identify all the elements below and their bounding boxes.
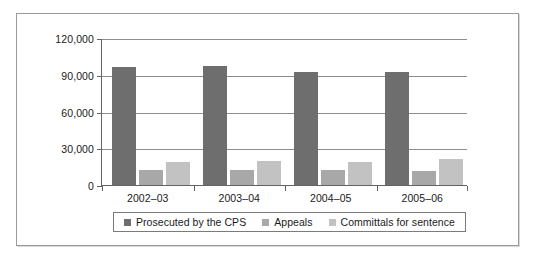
bar-group — [376, 39, 467, 185]
bar — [321, 170, 345, 185]
bar — [257, 161, 281, 186]
bar-group — [103, 39, 194, 185]
x-axis-group: 2002–03 — [102, 186, 194, 208]
legend-item-label: Prosecuted by the CPS — [136, 216, 246, 228]
x-axis-tick — [194, 186, 195, 191]
legend-swatch-icon — [329, 219, 336, 226]
legend-swatch-icon — [124, 219, 131, 226]
x-axis-tick-label: 2002–03 — [102, 192, 194, 204]
x-axis-tick-label: 2004–05 — [285, 192, 377, 204]
x-axis-tick — [285, 186, 286, 191]
x-axis-group: 2005–06 — [377, 186, 469, 208]
y-axis-tick-label: 60,000 — [61, 107, 94, 119]
y-axis-tick — [97, 113, 102, 114]
bar-chart: 030,00060,00090,000120,000 2002–032003–0… — [17, 14, 520, 247]
bar — [112, 67, 136, 185]
chart-figure-frame: 030,00060,00090,000120,000 2002–032003–0… — [16, 13, 519, 246]
bar — [439, 159, 463, 185]
bar — [203, 66, 227, 185]
legend-item-label: Appeals — [274, 216, 312, 228]
x-axis-tick-label: 2005–06 — [377, 192, 469, 204]
x-axis-group: 2004–05 — [285, 186, 377, 208]
bar — [294, 72, 318, 185]
legend-item-label: Committals for sentence — [341, 216, 455, 228]
x-axis-tick — [102, 186, 103, 191]
bar — [412, 171, 436, 185]
x-axis-tick — [467, 186, 468, 191]
bar — [230, 170, 254, 185]
y-axis-tick-label: 120,000 — [55, 33, 94, 45]
bar — [385, 72, 409, 185]
y-axis-tick — [97, 39, 102, 40]
y-axis-tick — [97, 149, 102, 150]
legend-item: Prosecuted by the CPS — [124, 216, 246, 228]
bar — [348, 162, 372, 185]
x-axis-group: 2003–04 — [194, 186, 286, 208]
bar-group — [285, 39, 376, 185]
bar — [139, 170, 163, 185]
y-axis-tick-label: 0 — [88, 180, 94, 192]
legend-swatch-icon — [262, 219, 269, 226]
bar — [166, 162, 190, 185]
plot-area: 030,00060,00090,000120,000 — [101, 39, 467, 186]
x-axis: 2002–032003–042004–052005–06 — [102, 186, 468, 208]
legend-item: Appeals — [262, 216, 312, 228]
bars-layer — [103, 39, 467, 185]
y-axis-tick — [97, 76, 102, 77]
y-axis-tick-label: 90,000 — [61, 70, 94, 82]
chart-legend: Prosecuted by the CPSAppealsCommittals f… — [113, 212, 466, 232]
legend-item: Committals for sentence — [329, 216, 455, 228]
x-axis-tick-label: 2003–04 — [194, 192, 286, 204]
bar-group — [194, 39, 285, 185]
x-axis-tick — [377, 186, 378, 191]
y-axis-tick-label: 30,000 — [61, 143, 94, 155]
